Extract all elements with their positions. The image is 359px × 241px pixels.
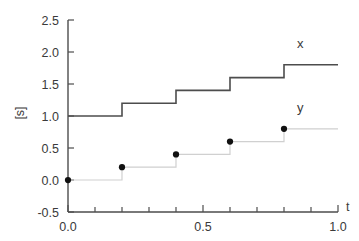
x-axis-tick-labels: 0.00.51.0 [59,220,346,234]
y-tick-label: 0.0 [42,174,59,188]
data-point-marker-y [227,138,233,144]
x-tick-label: 1.0 [329,220,346,234]
y-tick-label: -0.5 [37,206,59,220]
data-point-marker-y [281,126,287,132]
x-tick-label: 0.0 [59,220,76,234]
chart-container: -0.50.00.51.01.52.02.5 0.00.51.0 [s] t x… [0,0,359,241]
y-tick-label: 2.0 [42,46,59,60]
x-tick-label: 0.5 [194,220,211,234]
data-point-marker-y [173,151,179,157]
y-tick-label: 2.5 [42,14,59,28]
x-axis-title: t [346,200,350,214]
series-labels-group: xy [297,36,304,115]
y-tick-label: 1.5 [42,78,59,92]
chart-svg: -0.50.00.51.01.52.02.5 0.00.51.0 [s] t x… [0,0,359,241]
data-point-marker-y [119,164,125,170]
series-label-x: x [297,36,304,51]
series-line-y [68,129,338,180]
data-point-marker-y [65,177,71,183]
y-tick-label: 1.0 [42,110,59,124]
y-tick-label: 0.5 [42,142,59,156]
x-axis-ticks [68,205,338,212]
data-series-group [68,65,338,180]
series-label-y: y [297,100,304,115]
data-markers-group [65,126,287,183]
y-axis-title: [s] [13,106,27,119]
y-axis-tick-labels: -0.50.00.51.01.52.02.5 [37,14,59,220]
